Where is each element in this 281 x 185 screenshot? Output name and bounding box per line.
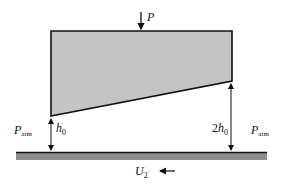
slider-bearing-diagram: P h0 2h0 Patm Patm U2 xyxy=(0,0,281,185)
patm-right-label: Patm xyxy=(250,123,269,138)
slider-pad xyxy=(51,31,232,116)
h0-label: h0 xyxy=(56,121,66,137)
velocity-label: U2 xyxy=(135,164,148,180)
2h0-label: 2h0 xyxy=(212,121,228,137)
diagram-canvas: P h0 2h0 Patm Patm U2 xyxy=(0,0,281,185)
patm-left-label: Patm xyxy=(13,123,32,138)
load-label: P xyxy=(146,10,155,24)
